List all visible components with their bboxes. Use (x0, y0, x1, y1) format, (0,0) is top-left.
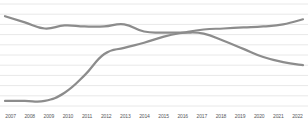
x-tick-label: 2017 (192, 113, 211, 119)
x-tick-label: 2018 (211, 113, 230, 119)
line-chart: 2007200820092010201120122013201420152016… (0, 0, 308, 124)
x-tick-label: 2019 (231, 113, 250, 119)
x-tick-label: 2007 (1, 113, 20, 119)
x-tick-label: 2012 (97, 113, 116, 119)
x-tick-label: 2015 (154, 113, 173, 119)
x-tick-label: 2013 (116, 113, 135, 119)
x-tick-label: 2014 (135, 113, 154, 119)
x-tick-label: 2016 (173, 113, 192, 119)
plot-area (0, 0, 308, 112)
series-layer (0, 0, 308, 112)
x-tick-label: 2020 (250, 113, 269, 119)
x-tick-label: 2010 (58, 113, 77, 119)
x-tick-label: 2008 (20, 113, 39, 119)
x-axis: 2007200820092010201120122013201420152016… (0, 112, 308, 124)
x-tick-label: 2022 (288, 113, 307, 119)
x-tick-label: 2009 (39, 113, 58, 119)
x-tick-label: 2021 (269, 113, 288, 119)
x-tick-label: 2011 (78, 113, 97, 119)
